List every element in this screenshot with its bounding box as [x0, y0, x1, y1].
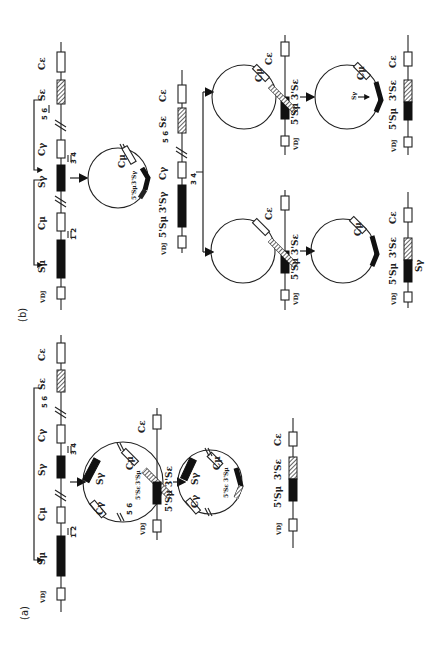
svg-text:Cε: Cε — [137, 420, 147, 433]
svg-text:Sγ: Sγ — [37, 464, 47, 476]
svg-text:5'Sμ: 5'Sμ — [164, 489, 174, 512]
svg-text:Cε: Cε — [388, 55, 398, 68]
b-branch-line — [196, 92, 203, 252]
svg-text:Sμ: Sμ — [37, 260, 47, 273]
svg-text:Cμ: Cμ — [37, 216, 47, 230]
svg-text:Sγ: Sγ — [95, 473, 105, 485]
svg-text:Cε: Cε — [37, 348, 47, 361]
svg-text:VDJ: VDJ — [292, 137, 300, 151]
b-germ-cmu-box — [57, 213, 65, 231]
svg-text:5 6: 5 6 — [162, 131, 170, 143]
svg-text:VDJ: VDJ — [139, 522, 147, 536]
svg-text:5'Sμ: 5'Sμ — [388, 262, 398, 285]
a-circle-1: Sγ Cγ Cμ 5 6 5'Sε 3'Sμ Cε 3'Sε 5'Sμ VDJ — [83, 408, 174, 540]
svg-text:3'Sμ: 3'Sμ — [222, 467, 230, 482]
b-germ-vdj-box — [57, 287, 65, 299]
svg-text:Cμ: Cμ — [212, 456, 222, 470]
svg-text:3'Sε: 3'Sε — [290, 79, 300, 100]
b-germ-cg-box — [57, 140, 65, 158]
svg-text:Cε: Cε — [158, 89, 168, 102]
b-product-upper: Cε 3'Sε 5'Sμ VDJ — [388, 35, 412, 155]
b-germ-se-box — [57, 80, 65, 104]
svg-text:Cγ: Cγ — [37, 429, 47, 442]
svg-text:Sμ: Sμ — [37, 552, 47, 565]
svg-text:Cγ: Cγ — [190, 495, 200, 508]
svg-text:3'Sε: 3'Sε — [290, 234, 300, 255]
svg-text:VDJ: VDJ — [160, 242, 168, 256]
svg-text:Cε: Cε — [388, 211, 398, 224]
a-circle-2: Sγ Cγ Cμ 5'Sε 3'Sμ — [178, 448, 242, 516]
svg-text:5'Sε: 5'Sε — [134, 486, 141, 500]
b-circle-lower-1: Cε 3'Sε 5'Sμ VDJ — [211, 190, 300, 310]
svg-text:3'Sε: 3'Sε — [388, 237, 398, 258]
svg-text:3'Sγ: 3'Sγ — [130, 171, 138, 185]
svg-text:5'Sμ: 5'Sμ — [290, 257, 300, 280]
svg-text:5'Sμ: 5'Sμ — [273, 485, 283, 508]
b-intermediate-line: Cε Sε 5 6 Cγ 3'Sγ 5'Sμ VDJ 3 4 — [158, 70, 198, 256]
svg-text:Cμ: Cμ — [117, 154, 127, 168]
svg-text:5 6: 5 6 — [41, 108, 49, 120]
svg-text:3 4: 3 4 — [190, 173, 198, 185]
svg-text:VDJ: VDJ — [39, 290, 47, 304]
svg-text:Cμ: Cμ — [125, 456, 135, 470]
b-germ-ce-box — [57, 52, 65, 72]
svg-text:5'Sμ: 5'Sμ — [290, 102, 300, 125]
svg-text:Cε: Cε — [273, 433, 283, 446]
svg-text:5'Sμ: 5'Sμ — [158, 215, 168, 238]
b-germ-smu-box — [57, 240, 65, 278]
svg-text:Cμ: Cμ — [37, 507, 47, 521]
svg-text:Sε: Sε — [37, 89, 47, 101]
svg-text:3'Sμ: 3'Sμ — [134, 470, 142, 485]
b-circle-1: Cμ 5'Sμ 3'Sγ — [88, 144, 148, 208]
svg-text:Sγ: Sγ — [350, 92, 358, 100]
b-circle-lower-2: Cμ — [311, 217, 377, 283]
b-germline: Cε Sε 5 6 Cγ Sγ Cμ Sμ VDJ 3 4 1 2 — [34, 42, 78, 310]
class-switch-diagram: (b) Cε Sε 5 6 Cγ Sγ Cμ Sμ VDJ 3 4 1 2 — [0, 0, 443, 655]
svg-text:Sγ: Sγ — [190, 473, 200, 485]
b-circle-upper-1: Cε 3'Sε 5'Sμ VDJ Cμ — [212, 35, 300, 155]
b-germ-sg-box — [57, 165, 65, 191]
a-germline: Cε Sε 5 6 Cγ Sγ Cμ Sμ VDJ 3 4 1 2 — [34, 335, 78, 612]
svg-text:3'Sγ: 3'Sγ — [158, 191, 168, 213]
svg-text:Cμ: Cμ — [353, 222, 363, 236]
svg-text:5'Sμ: 5'Sμ — [130, 185, 138, 200]
svg-text:5'Sμ: 5'Sμ — [388, 107, 398, 130]
svg-text:VDJ: VDJ — [390, 292, 398, 306]
svg-text:5'Sε: 5'Sε — [222, 484, 229, 498]
svg-text:Cε: Cε — [264, 207, 274, 220]
svg-text:VDJ: VDJ — [275, 522, 283, 536]
panel-label-b: (b) — [17, 308, 28, 322]
svg-text:Cε: Cε — [264, 52, 274, 65]
svg-text:5 6: 5 6 — [126, 503, 134, 515]
svg-text:3'Sε: 3'Sε — [273, 459, 283, 480]
svg-text:Sγ: Sγ — [414, 260, 424, 272]
svg-text:3'Sε: 3'Sε — [164, 466, 174, 487]
svg-text:Cμ: Cμ — [356, 66, 366, 80]
a-product: Cε 3'Sε 5'Sμ VDJ — [273, 418, 297, 548]
svg-text:5 6: 5 6 — [41, 396, 49, 408]
svg-text:Cγ: Cγ — [37, 143, 47, 156]
svg-text:Sγ: Sγ — [37, 176, 47, 188]
b-product-lower: Cε 3'Sε 5'Sμ VDJ Sγ — [388, 192, 424, 308]
svg-text:Cγ: Cγ — [95, 502, 105, 515]
b-circle-upper-2: Sγ Cμ — [315, 63, 381, 129]
svg-text:VDJ: VDJ — [292, 292, 300, 306]
svg-text:Cε: Cε — [37, 57, 47, 70]
svg-text:Cγ: Cγ — [158, 167, 168, 180]
svg-text:3'Sε: 3'Sε — [388, 80, 398, 101]
svg-text:Cμ: Cμ — [254, 68, 264, 82]
svg-text:Sε: Sε — [158, 116, 168, 128]
svg-text:VDJ: VDJ — [39, 590, 47, 604]
panel-label-a: (a) — [19, 606, 30, 620]
svg-text:VDJ: VDJ — [390, 139, 398, 153]
